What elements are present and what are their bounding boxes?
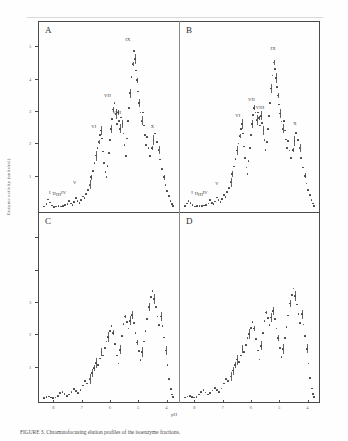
data-point — [85, 193, 87, 195]
x-axis-label: pH — [0, 412, 348, 417]
data-point — [140, 359, 142, 361]
peak-label-iv: IV — [203, 190, 208, 195]
error-bar — [294, 136, 295, 146]
error-bar — [139, 99, 140, 107]
data-point — [272, 75, 274, 77]
data-point — [97, 147, 99, 149]
data-point — [259, 125, 261, 127]
error-bar — [240, 134, 241, 138]
error-bar — [278, 335, 279, 341]
data-point — [193, 397, 195, 399]
data-point — [75, 197, 77, 199]
error-bar — [111, 125, 112, 134]
error-bar — [273, 307, 274, 314]
data-point — [150, 296, 152, 298]
figure-container: A IIIIIIIVVVIVIIVIIIIXX B IIIIIIIVVVIVII… — [0, 0, 348, 441]
data-point — [262, 332, 264, 334]
data-point — [208, 203, 210, 205]
data-point — [284, 130, 286, 132]
data-point — [158, 324, 160, 326]
error-bar — [153, 135, 154, 145]
y-axis-tick-label: 3 — [29, 300, 31, 305]
data-point — [257, 350, 259, 352]
data-point — [127, 120, 129, 122]
data-point — [296, 304, 298, 306]
data-point — [218, 391, 220, 393]
data-point — [196, 396, 198, 398]
data-point — [190, 202, 192, 204]
plot-frame: A IIIIIIIVVVIVIIVIIIIXX B IIIIIIIVVVIVII… — [38, 21, 320, 403]
y-axis-tick-label: 2 — [29, 332, 31, 337]
x-axis-tick — [167, 400, 168, 403]
data-point — [123, 133, 125, 135]
data-point — [203, 389, 205, 391]
error-bar — [237, 355, 238, 365]
data-point — [244, 157, 246, 159]
error-bar — [132, 311, 133, 318]
data-point — [252, 321, 254, 323]
data-point — [205, 392, 207, 394]
error-bar — [307, 344, 308, 353]
error-bar — [90, 180, 91, 189]
x-axis-tick — [53, 400, 54, 403]
x-axis-tick-label: 4 — [165, 405, 167, 410]
error-bar — [278, 93, 279, 99]
peak-label-vii: VII — [104, 93, 111, 98]
data-point — [52, 397, 54, 399]
y-axis-tick — [35, 79, 38, 80]
peak-label-vii: VII — [248, 97, 255, 102]
x-axis-tick — [223, 400, 224, 403]
error-bar — [99, 140, 100, 144]
data-point — [71, 391, 73, 393]
error-bar — [90, 374, 91, 383]
peak-label-vi: VI — [91, 124, 96, 129]
data-point — [235, 158, 237, 160]
data-point — [242, 133, 244, 135]
data-point — [213, 203, 215, 205]
data-point — [226, 191, 228, 193]
data-point — [125, 155, 127, 157]
data-point — [67, 203, 69, 205]
data-point — [269, 324, 271, 326]
peak-label-x: X — [151, 124, 155, 129]
data-point — [278, 104, 280, 106]
error-bar — [233, 367, 234, 375]
panel-d: D — [179, 212, 320, 403]
error-bar — [96, 358, 97, 368]
data-point — [250, 327, 252, 329]
data-point — [108, 152, 110, 154]
error-bar — [133, 62, 134, 66]
x-axis-tick-label: 8 — [193, 405, 195, 410]
error-bar — [108, 332, 109, 342]
figure-caption: FIGURE 3. Chromatofocusing elution profi… — [20, 429, 346, 439]
error-bar — [164, 175, 165, 180]
error-bar — [154, 294, 155, 304]
data-point — [57, 395, 59, 397]
data-point — [286, 147, 288, 149]
data-point — [170, 388, 172, 390]
data-point — [157, 316, 159, 318]
data-point — [233, 166, 235, 168]
error-bar — [137, 78, 138, 84]
data-point — [107, 165, 109, 167]
data-point — [257, 112, 259, 114]
data-point — [227, 380, 229, 382]
data-point — [116, 355, 118, 357]
data-point — [106, 341, 108, 343]
data-point — [118, 120, 120, 122]
data-point — [142, 112, 144, 114]
data-point — [259, 359, 261, 361]
data-point — [264, 320, 266, 322]
data-point — [121, 335, 123, 337]
data-point — [279, 347, 281, 349]
error-bar — [161, 312, 162, 321]
data-point — [167, 364, 169, 366]
error-bar — [293, 148, 294, 152]
error-bar — [295, 291, 296, 301]
peak-label-x: X — [293, 121, 297, 126]
data-point — [102, 355, 104, 357]
error-bar — [305, 173, 306, 178]
panel-b: B IIIIIIIVVVIVIIVIIIIXX — [179, 21, 320, 212]
data-point — [101, 138, 103, 140]
data-point — [94, 162, 96, 164]
